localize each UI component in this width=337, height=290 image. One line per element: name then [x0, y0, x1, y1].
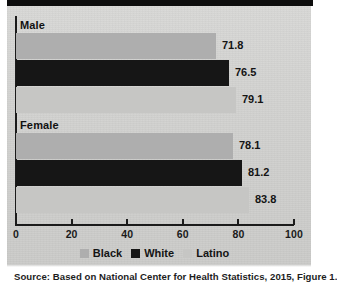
legend-swatch-black-icon	[80, 249, 89, 258]
x-tick-label-80: 80	[218, 228, 258, 240]
bar-male-black	[16, 33, 216, 59]
chart-legend: Black White Latino	[15, 247, 294, 259]
x-tick-label-0: 0	[0, 228, 36, 240]
bar-female-black	[16, 133, 233, 159]
legend-label-black: Black	[93, 247, 122, 259]
x-tick-label-100: 100	[274, 228, 314, 240]
x-tick-0	[15, 219, 17, 225]
x-tick-60	[182, 219, 184, 225]
legend-item-white: White	[131, 247, 174, 259]
bar-value-male-black: 71.8	[222, 39, 243, 51]
bar-value-female-black: 78.1	[239, 139, 260, 151]
legend-swatch-latino-icon	[183, 249, 192, 258]
group-label-male: Male	[20, 19, 45, 31]
x-tick-label-60: 60	[163, 228, 203, 240]
x-tick-label-40: 40	[107, 228, 147, 240]
legend-item-latino: Latino	[183, 247, 229, 259]
source-note: Source: Based on National Center for Hea…	[14, 271, 337, 282]
legend-label-latino: Latino	[196, 247, 229, 259]
x-tick-100	[293, 219, 295, 225]
bar-value-male-latino: 79.1	[242, 93, 263, 105]
x-tick-80	[237, 219, 239, 225]
group-label-female: Female	[20, 119, 59, 131]
bar-female-latino	[16, 187, 249, 213]
bar-male-white	[16, 60, 229, 86]
x-tick-20	[71, 219, 73, 225]
panel-bottom-shadow	[7, 264, 311, 267]
x-tick-label-20: 20	[52, 228, 92, 240]
bar-value-male-white: 76.5	[235, 66, 256, 78]
bar-value-female-white: 81.2	[248, 166, 269, 178]
legend-item-black: Black	[80, 247, 122, 259]
legend-label-white: White	[144, 247, 174, 259]
x-axis-line	[15, 224, 294, 226]
bar-female-white	[16, 160, 242, 186]
bar-male-latino	[16, 87, 236, 113]
bar-value-female-latino: 83.8	[255, 193, 276, 205]
x-tick-40	[126, 219, 128, 225]
legend-swatch-white-icon	[131, 249, 140, 258]
